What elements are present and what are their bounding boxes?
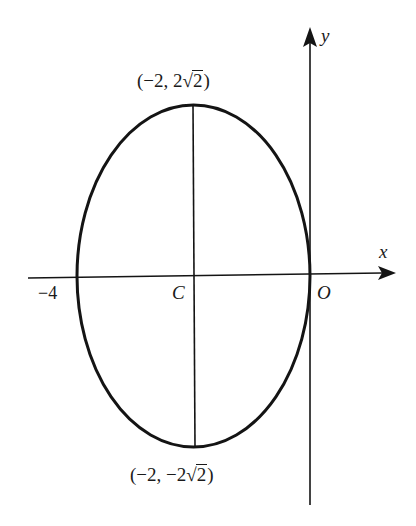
x-axis — [28, 273, 382, 278]
center-label: C — [172, 283, 185, 302]
top-vertex-prefix: (−2, 2 — [137, 70, 183, 91]
y-axis-label: y — [321, 26, 329, 45]
major-axis-segment — [193, 105, 195, 447]
top-vertex-label: (−2, 2√2) — [137, 70, 210, 90]
top-vertex-radicand: 2 — [192, 70, 204, 90]
sqrt-symbol: √2 — [186, 464, 207, 484]
origin-label: O — [317, 283, 331, 302]
top-vertex-suffix: ) — [203, 70, 209, 91]
ellipse-diagram: (−2, 2√2) (−2, −2√2) y x O C −4 — [0, 0, 416, 526]
left-vertex-label: −4 — [38, 284, 57, 302]
sqrt-symbol: √2 — [183, 70, 204, 90]
bottom-vertex-radicand: 2 — [196, 464, 208, 484]
x-axis-label: x — [379, 242, 387, 261]
bottom-vertex-suffix: ) — [207, 464, 213, 485]
bottom-vertex-prefix: (−2, −2 — [130, 464, 186, 485]
bottom-vertex-label: (−2, −2√2) — [130, 464, 214, 484]
